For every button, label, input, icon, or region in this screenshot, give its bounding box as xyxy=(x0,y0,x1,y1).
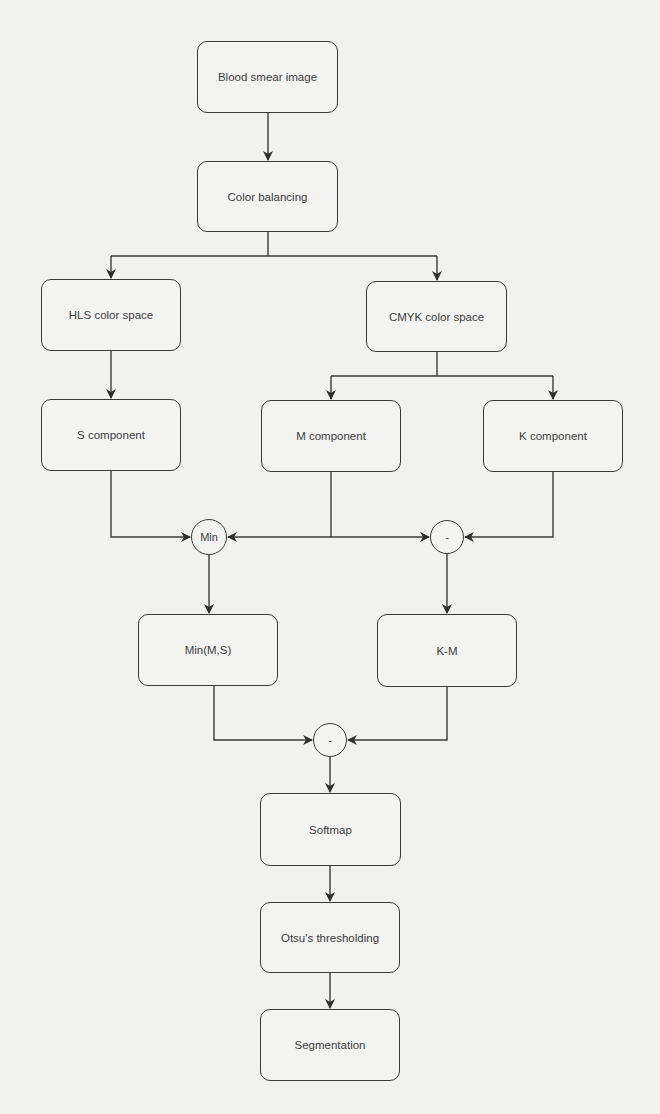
node-m-component: M component xyxy=(261,400,401,472)
node-hls-color-space: HLS color space xyxy=(41,279,181,351)
node-label: CMYK color space xyxy=(389,311,484,323)
op-subtract-2: - xyxy=(313,723,347,757)
node-label: Color balancing xyxy=(228,191,308,203)
op-min: Min xyxy=(191,519,227,555)
node-color-balancing: Color balancing xyxy=(197,161,338,232)
op-subtract-1: - xyxy=(430,520,464,554)
node-label: HLS color space xyxy=(69,309,153,321)
node-k-minus-m: K-M xyxy=(377,614,517,687)
node-label: M component xyxy=(296,430,366,442)
node-label: K-M xyxy=(436,645,457,657)
node-k-component: K component xyxy=(483,400,623,472)
op-label: - xyxy=(328,734,332,746)
node-label: K component xyxy=(519,430,587,442)
node-label: Min(M,S) xyxy=(185,644,232,656)
node-segmentation: Segmentation xyxy=(260,1009,400,1081)
node-label: Blood smear image xyxy=(218,71,317,83)
node-otsu-thresholding: Otsu's thresholding xyxy=(260,902,400,973)
node-label: S component xyxy=(77,429,145,441)
node-s-component: S component xyxy=(41,399,181,471)
node-blood-smear-image: Blood smear image xyxy=(197,41,338,113)
node-min-m-s: Min(M,S) xyxy=(138,614,278,686)
op-label: - xyxy=(445,531,449,543)
node-label: Otsu's thresholding xyxy=(281,932,379,944)
node-softmap: Softmap xyxy=(260,793,401,866)
node-label: Segmentation xyxy=(295,1039,366,1051)
node-label: Softmap xyxy=(309,824,352,836)
node-cmyk-color-space: CMYK color space xyxy=(366,281,507,352)
op-label: Min xyxy=(200,531,218,543)
